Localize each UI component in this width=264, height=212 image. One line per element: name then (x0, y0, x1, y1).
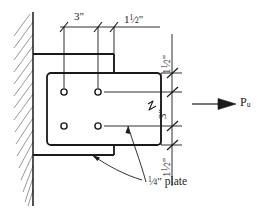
engineering-drawing-canvas: 3" 11⁄2" 11⁄2" 3" 11⁄2" 1⁄4" plate Pu (0, 0, 264, 212)
detail-drawing-svg (0, 0, 264, 212)
top-dimension-label-1: 3" (74, 11, 84, 22)
plate-fraction-text: 1⁄4" (148, 176, 162, 187)
top-dimension-label-2: 11⁄2" (124, 10, 143, 26)
bolt-hole-group (61, 89, 101, 129)
top-dim2-text: 11⁄2" (124, 14, 143, 25)
plate-leader-right (126, 126, 147, 182)
right-dimension-label-1: 11⁄2" (157, 55, 173, 74)
top-extension-lines (64, 27, 114, 88)
plate-label-text: plate (162, 175, 187, 187)
load-label: Pu (240, 96, 250, 109)
plate-thickness-label: 1⁄4" plate (148, 176, 187, 188)
right-dimension-ticks (167, 68, 178, 150)
wall-hatch-icon (14, 14, 33, 206)
right-extension-lines (104, 73, 182, 145)
bolt-hole (95, 123, 101, 129)
break-symbol-icon (148, 101, 156, 110)
right-dim1-text: 11⁄2" (161, 55, 172, 74)
bolt-hole (61, 89, 67, 95)
right-dimension-label-2: 3" (157, 109, 168, 119)
bolt-hole (95, 89, 101, 95)
bolt-hole (61, 123, 67, 129)
load-arrow-icon (192, 99, 236, 110)
load-symbol: P (240, 95, 247, 109)
plate-leader-left (92, 155, 142, 180)
load-subscript: u (247, 100, 251, 109)
